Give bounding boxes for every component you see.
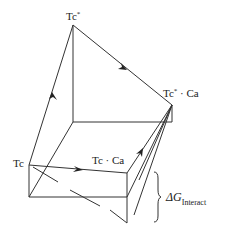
hidden-line-2 bbox=[70, 190, 100, 206]
left-diagonal-edge bbox=[29, 122, 73, 197]
label-delta-g-interact: ΔGInteract bbox=[165, 190, 207, 207]
label-tc: Tc bbox=[13, 157, 24, 169]
delta-g-brace bbox=[154, 172, 161, 222]
arrow-top-right-edge bbox=[118, 63, 127, 70]
hidden-line-3 bbox=[110, 210, 127, 223]
edge-tcca-to-tcstarca bbox=[127, 105, 172, 173]
inner-diagonal-2 bbox=[139, 105, 172, 180]
arrow-tcca-to-tcstarca bbox=[136, 148, 143, 157]
label-tc-ca: Tc · Ca bbox=[92, 154, 124, 166]
thermodynamic-cycle-diagram: Tc* Tc* · Ca Tc Tc · Ca ΔGInteract bbox=[0, 0, 225, 231]
inner-diagonal-1 bbox=[127, 105, 172, 197]
label-tc-star: Tc* bbox=[66, 10, 81, 22]
label-tc-star-ca: Tc* · Ca bbox=[163, 87, 199, 99]
